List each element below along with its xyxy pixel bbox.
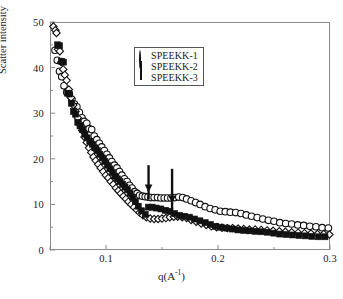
y-tick-label: 10	[0, 199, 44, 210]
legend-label: SPEEKK-3	[151, 72, 198, 83]
circle-open-icon	[138, 51, 147, 60]
x-axis-title-base: q(A	[158, 270, 175, 282]
y-tick-label: 20	[0, 153, 44, 164]
x-tick-label: 0.2	[211, 253, 225, 264]
x-axis-title-tail: )	[181, 270, 185, 282]
y-tick-label: 0	[0, 245, 44, 256]
figure-scatter-plot: 01020304050 0.10.20.3 Scatter intensity …	[0, 0, 343, 299]
diamond-open-icon	[138, 62, 147, 71]
legend-item-speekk-3: SPEEKK-3	[138, 72, 198, 83]
y-tick-label: 30	[0, 108, 44, 119]
square-filled-icon	[138, 73, 147, 82]
legend-item-speekk-1: SPEEKK-1	[138, 50, 198, 61]
x-tick-label: 0.3	[323, 253, 337, 264]
legend-label: SPEEKK-1	[151, 50, 198, 61]
legend-item-speekk-2: SPEEKK-2	[138, 61, 198, 72]
y-axis-title: Scatter intensity	[0, 0, 8, 100]
x-tick-label: 0.1	[99, 253, 113, 264]
legend-label: SPEEKK-2	[151, 61, 198, 72]
legend: SPEEKK-1 SPEEKK-2 SPEEKK-3	[134, 47, 204, 86]
x-axis-title: q(A-1)	[0, 268, 343, 282]
